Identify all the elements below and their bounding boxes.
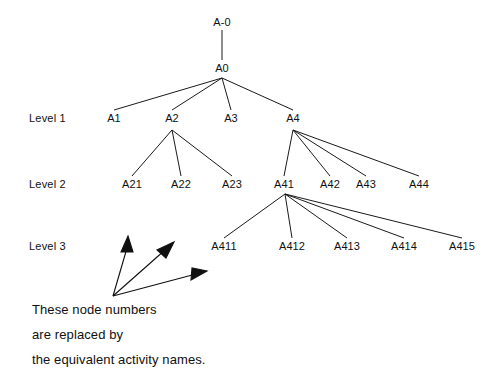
caption-line-1: These node numbers: [32, 297, 332, 322]
node-label-a412: A412: [279, 240, 305, 252]
edge-a4-a41: [284, 130, 293, 176]
node-label-a415: A415: [449, 240, 475, 252]
node-label-a42: A42: [320, 178, 340, 190]
arrow-up-head: [121, 236, 133, 252]
edge-a2-a21: [132, 130, 172, 176]
edge-a41-a411: [224, 194, 285, 238]
edge-a0-a4: [222, 78, 293, 110]
node-label-a414: A414: [391, 240, 417, 252]
edge-a2-a23: [172, 130, 232, 176]
node-label-a44: A44: [409, 178, 429, 190]
node-label-a0: A0: [215, 62, 229, 74]
annotation-arrows: [113, 236, 207, 296]
node-label-a1: A1: [107, 112, 121, 124]
edge-a0-a2: [172, 78, 222, 110]
level-label-2: Level 2: [29, 178, 66, 190]
node-label-a43: A43: [356, 178, 376, 190]
edge-a2-a22: [172, 130, 181, 176]
arrow-up-shaft: [113, 248, 127, 296]
edge-a41-a415: [285, 194, 462, 238]
arrow-right-head: [191, 268, 207, 280]
edge-a41-a413: [285, 194, 347, 238]
node-label-a41: A41: [274, 178, 294, 190]
node-label-a21: A21: [122, 178, 142, 190]
node-label-a2: A2: [165, 112, 179, 124]
edge-a41-a414: [285, 194, 404, 238]
node-label-a22: A22: [171, 178, 191, 190]
node-label-a413: A413: [334, 240, 360, 252]
caption-line-3: the equivalent activity names.: [32, 347, 332, 372]
edge-a0-a3: [222, 78, 231, 110]
node-label-a23: A23: [222, 178, 242, 190]
node-label-a4: A4: [286, 112, 300, 124]
arrow-upright-head: [157, 242, 174, 258]
node-label-a3: A3: [224, 112, 238, 124]
caption-line-2: are replaced by: [32, 322, 332, 347]
edge-a41-a412: [285, 194, 292, 238]
annotation-caption: These node numbers are replaced by the e…: [32, 297, 332, 372]
level-label-3: Level 3: [29, 240, 66, 252]
edge-a0-a1: [114, 78, 222, 110]
node-label-a-0: A-0: [213, 16, 230, 28]
level-label-1: Level 1: [29, 112, 66, 124]
tree-edges: [114, 30, 462, 238]
node-label-a411: A411: [211, 240, 236, 252]
